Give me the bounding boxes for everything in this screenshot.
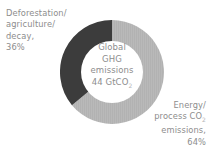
left-label-line-3: decay, [6,31,86,42]
right-label-line-1: Energy/ [116,100,206,111]
left-label-line-2: agriculture/ [6,19,86,30]
left-label-line-1: Deforestation/ [6,8,86,19]
right-label-co2: process CO [154,111,202,121]
slice-label-deforestation: Deforestation/ agriculture/ decay, 36% [6,8,86,54]
center-line-2: GHG [60,54,164,66]
chart-canvas: Global GHG emissions 44 GtCO2 Deforestat… [0,0,212,153]
left-label-percent: 36% [6,42,86,53]
center-subscript: 2 [128,81,132,88]
right-label-subscript: 2 [202,116,206,123]
center-line-3: emissions [60,65,164,77]
right-label-line-3: emissions, [116,125,206,136]
slice-label-energy: Energy/ process CO2 emissions, 64% [116,100,206,148]
right-label-percent: 64% [116,137,206,148]
center-line-4: 44 GtCO2 [60,77,164,91]
right-label-line-2: process CO2 [116,111,206,125]
center-total-value: 44 GtCO [92,77,129,87]
